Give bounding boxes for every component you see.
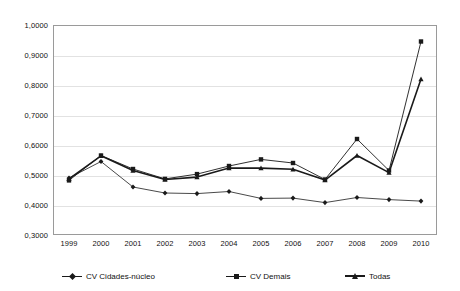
data-point-diamond — [259, 196, 264, 201]
series-1 — [67, 159, 424, 205]
legend-item-3[interactable]: Todas — [345, 268, 390, 284]
data-point-triangle — [354, 153, 359, 158]
legend-marker-diamond-icon — [68, 272, 75, 279]
x-tick-label: 2000 — [92, 239, 109, 248]
legend-label: Todas — [369, 272, 390, 281]
y-tick-label: 0,6000 — [24, 141, 48, 150]
x-axis: 1999200020012002200320042005200620072008… — [0, 239, 460, 253]
legend-marker-square-icon — [234, 274, 239, 279]
data-point-diamond — [195, 191, 200, 196]
x-tick-label: 2001 — [124, 239, 141, 248]
x-tick-label: 1999 — [60, 239, 77, 248]
data-point-diamond — [419, 199, 424, 204]
legend-marker-triangle-icon — [352, 273, 358, 279]
y-tick-label: 0,5000 — [24, 171, 48, 180]
series-2 — [67, 39, 423, 182]
data-point-diamond — [291, 196, 296, 201]
chart-legend: CV Cidades-núcleoCV DemaisTodas — [0, 268, 460, 284]
series-3 — [66, 76, 423, 182]
x-tick-label: 2008 — [348, 239, 365, 248]
legend-label: CV Cidades-núcleo — [86, 272, 155, 281]
data-point-diamond — [227, 189, 232, 194]
series-line — [69, 42, 421, 181]
x-tick-label: 2004 — [220, 239, 237, 248]
legend-item-2[interactable]: CV Demais — [226, 268, 290, 284]
x-tick-label: 2009 — [380, 239, 397, 248]
legend-swatch-triangle-icon — [345, 271, 365, 281]
data-point-square — [291, 161, 295, 165]
x-tick-label: 2005 — [252, 239, 269, 248]
y-tick-label: 1,0000 — [24, 21, 48, 30]
legend-swatch-square-icon — [226, 271, 246, 281]
data-point-diamond — [387, 197, 392, 202]
data-point-square — [355, 137, 359, 141]
x-tick-label: 2010 — [412, 239, 429, 248]
line-chart: 1,00000,90000,80000,70000,60000,50000,40… — [0, 0, 460, 291]
data-layer — [53, 25, 437, 235]
legend-label: CV Demais — [250, 272, 290, 281]
y-tick-label: 0,8000 — [24, 81, 48, 90]
y-tick-label: 0,4000 — [24, 201, 48, 210]
legend-item-1[interactable]: CV Cidades-núcleo — [62, 268, 155, 284]
data-point-diamond — [323, 200, 328, 205]
series-line — [69, 79, 421, 180]
y-tick-label: 0,7000 — [24, 111, 48, 120]
data-point-diamond — [163, 190, 168, 195]
x-tick-label: 2007 — [316, 239, 333, 248]
legend-swatch-diamond-icon — [62, 271, 82, 281]
data-point-diamond — [355, 195, 360, 200]
data-point-triangle — [418, 76, 423, 81]
x-tick-label: 2003 — [188, 239, 205, 248]
data-point-square — [419, 39, 423, 43]
y-tick-label: 0,9000 — [24, 51, 48, 60]
x-tick-label: 2006 — [284, 239, 301, 248]
data-point-square — [259, 157, 263, 161]
x-tick-label: 2002 — [156, 239, 173, 248]
